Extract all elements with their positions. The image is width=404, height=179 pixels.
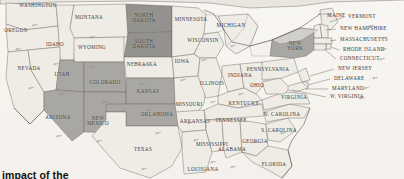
us-map-svg [0, 0, 404, 179]
state-shape-RI[interactable] [326, 44, 331, 49]
state-shape-LA[interactable] [182, 130, 212, 174]
state-shape-ND[interactable] [126, 4, 172, 33]
state-shape-WY[interactable] [74, 37, 124, 62]
state-shape-KS[interactable] [126, 78, 175, 104]
state-shape-NE[interactable] [124, 57, 174, 78]
state-shape-AL[interactable] [222, 120, 242, 158]
state-shape-MA[interactable] [314, 38, 332, 44]
map-canvas: WASHINGTONOREGONIDAHOMONTANANORTHDAKOTAM… [0, 0, 404, 179]
state-shape-UT[interactable] [56, 60, 84, 92]
state-shape-MT[interactable] [70, 4, 128, 38]
page-caption: impact of the [2, 169, 69, 179]
state-shape-SD[interactable] [124, 32, 172, 57]
state-shape-AR[interactable] [176, 110, 206, 132]
state-shape-IA[interactable] [172, 54, 200, 78]
state-shape-CO[interactable] [84, 62, 126, 92]
state-shape-WA[interactable] [6, 3, 58, 30]
